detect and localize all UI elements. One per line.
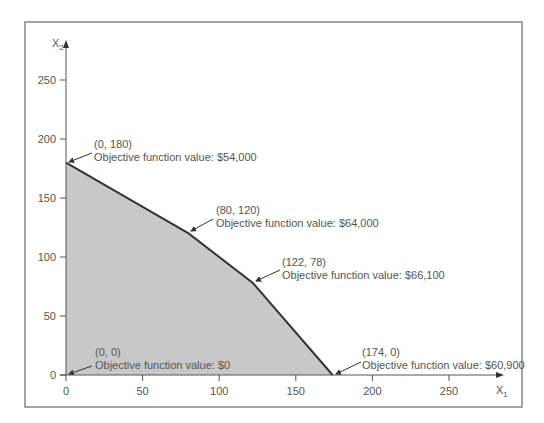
- x-tick-50: 50: [136, 385, 148, 397]
- annotation-0-coord: (0, 180): [94, 138, 132, 150]
- y-tick-50: 50: [44, 310, 56, 322]
- annotation-1-coord: (80, 120): [216, 204, 260, 216]
- annotation-1-text: Objective function value: $64,000: [216, 217, 379, 229]
- y-tick-0: 0: [50, 369, 56, 381]
- annotation-3-text: Objective function value: $0: [95, 359, 230, 371]
- annotation-2-text: Objective function value: $66,100: [282, 269, 445, 281]
- x-tick-100: 100: [210, 385, 228, 397]
- y-tick-150: 150: [38, 192, 56, 204]
- y-tick-100: 100: [38, 251, 56, 263]
- annotation-4-coord: (174, 0): [362, 346, 400, 358]
- annotation-2-coord: (122, 78): [282, 256, 326, 268]
- annotation-3-coord: (0, 0): [95, 346, 121, 358]
- annotation-4-text: Objective function value: $60,900: [362, 359, 525, 371]
- y-tick-200: 200: [38, 133, 56, 145]
- x-tick-200: 200: [363, 385, 381, 397]
- x-tick-150: 150: [287, 385, 305, 397]
- x-tick-250: 250: [440, 385, 458, 397]
- chart: 0 50 100 150 200 250 0 50 100 150 200 25…: [0, 0, 544, 423]
- annotation-0-text: Objective function value: $54,000: [94, 151, 257, 163]
- y-tick-250: 250: [38, 74, 56, 86]
- x-tick-0: 0: [63, 385, 69, 397]
